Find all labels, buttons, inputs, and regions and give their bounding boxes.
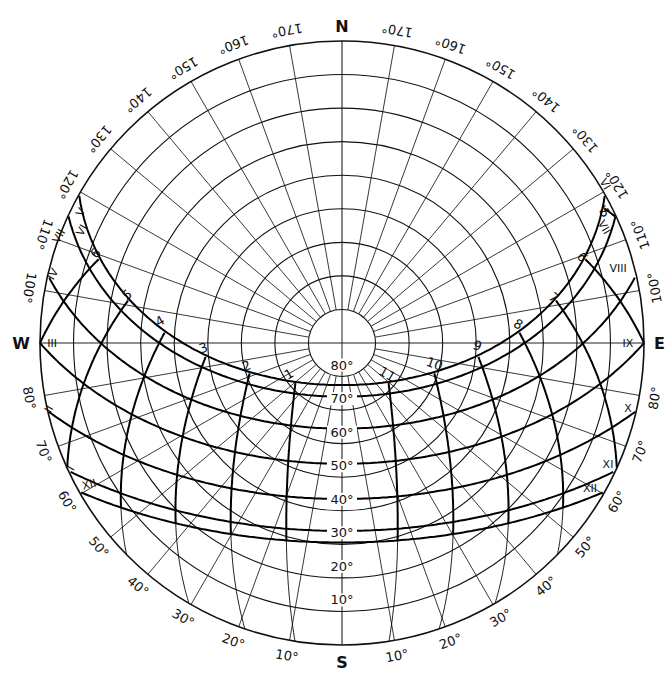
azimuth-label: 20° bbox=[437, 630, 464, 652]
altitude-label: 50° bbox=[330, 458, 353, 473]
hour-label: 5 bbox=[119, 286, 135, 303]
azimuth-label: 150° bbox=[483, 54, 518, 83]
date-label: IX bbox=[623, 337, 634, 350]
date-label: II bbox=[42, 403, 57, 415]
azimuth-label: 30° bbox=[170, 606, 197, 631]
hour-line-extension bbox=[389, 541, 398, 642]
azimuth-label: 80° bbox=[20, 385, 39, 410]
azimuth-label: 110° bbox=[628, 217, 653, 252]
azimuth-label: 10° bbox=[274, 646, 299, 665]
altitude-label: 70° bbox=[330, 391, 353, 406]
hour-label: 8 bbox=[511, 316, 526, 333]
date-label: III bbox=[47, 337, 57, 350]
hour-label: 9 bbox=[471, 337, 484, 354]
compass-east: E bbox=[654, 334, 665, 353]
azimuth-label: 40° bbox=[532, 573, 559, 599]
sun-path-diagram: 10°20°30°40°50°60°70°80° 10°10°20°20°30°… bbox=[0, 0, 672, 673]
azimuth-label: 100° bbox=[19, 271, 39, 304]
altitude-label: 30° bbox=[330, 525, 353, 540]
azimuth-label: 70° bbox=[33, 438, 55, 465]
azimuth-label: 50° bbox=[86, 533, 112, 560]
altitude-label: 40° bbox=[330, 492, 353, 507]
altitude-label: 20° bbox=[330, 559, 353, 574]
azimuth-label: 50° bbox=[572, 533, 598, 560]
hour-label: 7 bbox=[546, 289, 562, 306]
azimuth-label: 10° bbox=[384, 646, 409, 665]
hour-line-extension bbox=[121, 508, 127, 555]
azimuth-label: 170° bbox=[380, 20, 413, 40]
compass-south: S bbox=[336, 653, 348, 672]
azimuth-label: 40° bbox=[124, 573, 151, 599]
date-label: XII bbox=[81, 477, 98, 493]
hour-label: 2 bbox=[240, 357, 253, 374]
date-label: VIII bbox=[609, 262, 626, 275]
compass-west: W bbox=[12, 334, 30, 353]
hour-line-extension bbox=[286, 541, 295, 642]
azimuth-label: 60° bbox=[55, 488, 80, 515]
azimuth-label: 170° bbox=[270, 20, 303, 40]
altitude-label: 80° bbox=[330, 358, 353, 373]
date-label: XI bbox=[603, 458, 614, 471]
hour-label: 4 bbox=[152, 313, 167, 330]
azimuth-label: 120° bbox=[53, 167, 82, 202]
date-label: VI bbox=[74, 222, 91, 238]
azimuth-label: 160° bbox=[216, 32, 251, 57]
azimuth-label: 150° bbox=[166, 54, 201, 83]
azimuth-label: 80° bbox=[645, 385, 664, 410]
azimuth-label: 70° bbox=[629, 438, 651, 465]
hour-line-extension bbox=[176, 524, 189, 603]
azimuth-label: 60° bbox=[605, 488, 630, 515]
azimuth-label: 30° bbox=[487, 606, 514, 631]
azimuth-label: 100° bbox=[645, 271, 665, 304]
date-label: XII bbox=[583, 482, 597, 495]
azimuth-label: 160° bbox=[433, 32, 468, 57]
date-label: X bbox=[624, 402, 632, 415]
compass-north: N bbox=[335, 17, 348, 36]
hour-line-extension bbox=[558, 508, 564, 555]
azimuth-label: 20° bbox=[220, 630, 247, 652]
altitude-label: 10° bbox=[330, 592, 353, 607]
hour-line-extension bbox=[495, 524, 508, 603]
altitude-label: 60° bbox=[330, 425, 353, 440]
